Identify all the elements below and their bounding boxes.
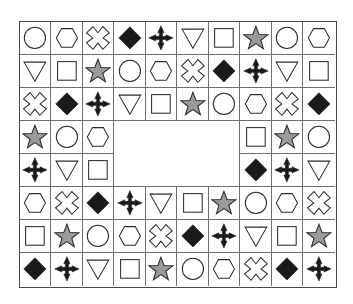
diamond-black-icon: [274, 256, 300, 282]
grid-cell-square-r3-c5[interactable]: [146, 88, 177, 121]
grid-cell-plus-black-r5-c1[interactable]: [20, 154, 51, 187]
plus-black-icon: [306, 256, 332, 282]
grid-cell-plus-black-r1-c5[interactable]: [146, 22, 177, 55]
grid-cell-star-gray-r6-c7[interactable]: [209, 187, 240, 220]
grid-cell-diamond-black-r1-c4[interactable]: [114, 22, 145, 55]
x-cross-icon: [22, 91, 48, 117]
grid-cell-hexagon-r3-c8[interactable]: [240, 88, 271, 121]
grid-cell-x-cross-r6-c10[interactable]: [303, 187, 334, 220]
grid-cell-triangle-down-r8-c3[interactable]: [83, 253, 114, 286]
grid-cell-x-cross-r3-c9[interactable]: [272, 88, 303, 121]
grid-cell-plus-black-r3-c3[interactable]: [83, 88, 114, 121]
grid-cell-hexagon-r8-c7[interactable]: [209, 253, 240, 286]
grid-cell-star-gray-r1-c8[interactable]: [240, 22, 271, 55]
triangle-down-icon: [180, 25, 206, 51]
grid-cell-plus-black-r5-c9[interactable]: [272, 154, 303, 187]
grid-cell-square-r4-c8[interactable]: [240, 121, 271, 154]
circle-icon: [54, 124, 80, 150]
grid-cell-triangle-down-r1-c6[interactable]: [177, 22, 208, 55]
grid-cell-diamond-black-r8-c1[interactable]: [20, 253, 51, 286]
grid-cell-blank-r4-c4[interactable]: [114, 121, 145, 154]
grid-cell-x-cross-r1-c3[interactable]: [83, 22, 114, 55]
star-gray-icon: [22, 124, 48, 150]
grid-cell-circle-r8-c6[interactable]: [177, 253, 208, 286]
grid-cell-plus-black-r6-c4[interactable]: [114, 187, 145, 220]
plus-black-icon: [211, 223, 237, 249]
grid-cell-hexagon-r6-c9[interactable]: [272, 187, 303, 220]
grid-cell-x-cross-r8-c8[interactable]: [240, 253, 271, 286]
grid-cell-triangle-down-r2-c1[interactable]: [20, 55, 51, 88]
grid-cell-blank-r4-c6[interactable]: [177, 121, 208, 154]
triangle-down-icon: [85, 256, 111, 282]
grid-cell-star-gray-r4-c1[interactable]: [20, 121, 51, 154]
grid-cell-hexagon-r6-c1[interactable]: [20, 187, 51, 220]
grid-cell-triangle-down-r2-c9[interactable]: [272, 55, 303, 88]
grid-cell-circle-r2-c4[interactable]: [114, 55, 145, 88]
grid-cell-blank-r5-c4[interactable]: [114, 154, 145, 187]
grid-cell-square-r2-c10[interactable]: [303, 55, 334, 88]
circle-icon: [117, 58, 143, 84]
grid-cell-circle-r4-c10[interactable]: [303, 121, 334, 154]
diamond-black-icon: [243, 157, 269, 183]
grid-cell-blank-r5-c5[interactable]: [146, 154, 177, 187]
grid-cell-plus-black-r8-c10[interactable]: [303, 253, 334, 286]
square-icon: [180, 190, 206, 216]
grid-cell-square-r1-c7[interactable]: [209, 22, 240, 55]
grid-cell-triangle-down-r5-c2[interactable]: [51, 154, 82, 187]
grid-cell-hexagon-r7-c4[interactable]: [114, 220, 145, 253]
grid-cell-triangle-down-r6-c5[interactable]: [146, 187, 177, 220]
x-cross-icon: [243, 256, 269, 282]
grid-cell-triangle-down-r7-c8[interactable]: [240, 220, 271, 253]
grid-cell-plus-black-r7-c7[interactable]: [209, 220, 240, 253]
grid-cell-x-cross-r6-c2[interactable]: [51, 187, 82, 220]
grid-cell-diamond-black-r2-c7[interactable]: [209, 55, 240, 88]
grid-cell-triangle-down-r3-c4[interactable]: [114, 88, 145, 121]
grid-cell-star-gray-r8-c5[interactable]: [146, 253, 177, 286]
grid-cell-diamond-black-r5-c8[interactable]: [240, 154, 271, 187]
grid-cell-star-gray-r7-c10[interactable]: [303, 220, 334, 253]
grid-cell-circle-r4-c2[interactable]: [51, 121, 82, 154]
grid-cell-plus-black-r2-c8[interactable]: [240, 55, 271, 88]
grid-cell-circle-r1-c1[interactable]: [20, 22, 51, 55]
grid-cell-square-r5-c3[interactable]: [83, 154, 114, 187]
grid-cell-blank-r4-c7[interactable]: [209, 121, 240, 154]
grid-cell-diamond-black-r3-c10[interactable]: [303, 88, 334, 121]
diamond-black-icon: [306, 91, 332, 117]
grid-cell-diamond-black-r6-c3[interactable]: [83, 187, 114, 220]
grid-cell-circle-r1-c9[interactable]: [272, 22, 303, 55]
grid-cell-hexagon-r2-c5[interactable]: [146, 55, 177, 88]
grid-cell-square-r8-c4[interactable]: [114, 253, 145, 286]
grid-cell-circle-r6-c8[interactable]: [240, 187, 271, 220]
grid-cell-blank-r5-c6[interactable]: [177, 154, 208, 187]
grid-cell-x-cross-r2-c6[interactable]: [177, 55, 208, 88]
grid-cell-square-r2-c2[interactable]: [51, 55, 82, 88]
square-icon: [85, 157, 111, 183]
grid-cell-plus-black-r8-c2[interactable]: [51, 253, 82, 286]
grid-cell-x-cross-r3-c1[interactable]: [20, 88, 51, 121]
grid-cell-star-gray-r2-c3[interactable]: [83, 55, 114, 88]
grid-cell-circle-r3-c7[interactable]: [209, 88, 240, 121]
grid-cell-hexagon-r1-c10[interactable]: [303, 22, 334, 55]
grid-cell-square-r6-c6[interactable]: [177, 187, 208, 220]
circle-icon: [306, 124, 332, 150]
grid-cell-diamond-black-r7-c6[interactable]: [177, 220, 208, 253]
grid-cell-circle-r7-c3[interactable]: [83, 220, 114, 253]
hexagon-icon: [306, 25, 332, 51]
grid-cell-hexagon-r1-c2[interactable]: [51, 22, 82, 55]
grid-cell-x-cross-r7-c5[interactable]: [146, 220, 177, 253]
grid-cell-blank-r4-c5[interactable]: [146, 121, 177, 154]
star-gray-icon: [148, 256, 174, 282]
grid-cell-square-r7-c1[interactable]: [20, 220, 51, 253]
grid-cell-diamond-black-r3-c2[interactable]: [51, 88, 82, 121]
grid-cell-hexagon-r4-c3[interactable]: [83, 121, 114, 154]
grid-cell-triangle-down-r5-c10[interactable]: [303, 154, 334, 187]
grid-cell-blank-r5-c7[interactable]: [209, 154, 240, 187]
plus-black-icon: [274, 157, 300, 183]
grid-cell-star-gray-r7-c2[interactable]: [51, 220, 82, 253]
grid-cell-star-gray-r4-c9[interactable]: [272, 121, 303, 154]
x-cross-icon: [274, 91, 300, 117]
grid-cell-star-gray-r3-c6[interactable]: [177, 88, 208, 121]
grid-cell-square-r7-c9[interactable]: [272, 220, 303, 253]
circle-icon: [211, 91, 237, 117]
grid-cell-diamond-black-r8-c9[interactable]: [272, 253, 303, 286]
